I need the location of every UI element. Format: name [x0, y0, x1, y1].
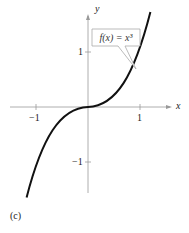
x-tick-1: 1: [137, 112, 142, 123]
x-axis-arrow-icon: [166, 105, 172, 109]
y-axis-arrow-icon: [86, 14, 90, 20]
y-tick-1: 1: [78, 46, 83, 57]
y-tick-neg1: −1: [72, 156, 83, 167]
y-axis-label: y: [95, 3, 99, 14]
x-tick-neg1: −1: [29, 112, 40, 123]
function-callout: f(x) = x³: [92, 29, 140, 46]
panel-label: (c): [10, 210, 21, 221]
x-axis-label: x: [176, 100, 180, 111]
